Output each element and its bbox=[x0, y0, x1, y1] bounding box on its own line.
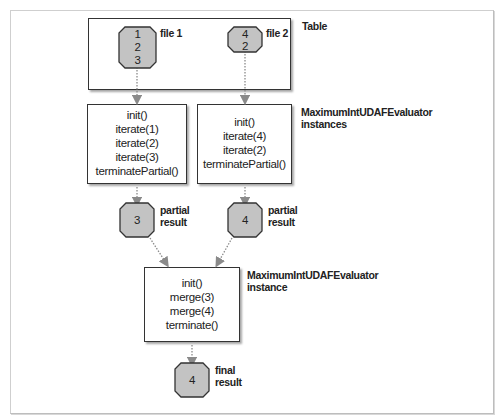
partial-result-1-value: 3 bbox=[120, 203, 154, 237]
file-1-values: 1 2 3 bbox=[119, 27, 156, 68]
file-2-label: file 2 bbox=[266, 27, 288, 39]
partial-result-2-label: partial result bbox=[268, 204, 297, 228]
file-2-values: 4 2 bbox=[228, 27, 262, 52]
partial-result-1-label: partial result bbox=[160, 204, 189, 228]
label-line: partial bbox=[268, 204, 297, 216]
value: 4 bbox=[242, 213, 248, 227]
label-line: final bbox=[215, 364, 242, 376]
partial-result-2-value: 4 bbox=[228, 203, 262, 237]
arrow-partial2-to-merger bbox=[218, 238, 232, 263]
label-line: result bbox=[268, 216, 297, 228]
value: 2 bbox=[134, 41, 140, 54]
arrow-partial1-to-merger bbox=[150, 238, 166, 263]
value: 2 bbox=[242, 40, 248, 52]
label-line: partial bbox=[160, 204, 189, 216]
value: 1 bbox=[134, 28, 140, 41]
value: 3 bbox=[134, 54, 140, 67]
file-1-label: file 1 bbox=[160, 27, 182, 39]
value: 3 bbox=[134, 213, 140, 227]
value: 4 bbox=[189, 373, 195, 387]
value: 4 bbox=[242, 28, 248, 40]
final-result-value: 4 bbox=[175, 363, 209, 397]
label-line: result bbox=[215, 376, 242, 388]
final-result-label: final result bbox=[215, 364, 242, 388]
label-line: result bbox=[160, 216, 189, 228]
